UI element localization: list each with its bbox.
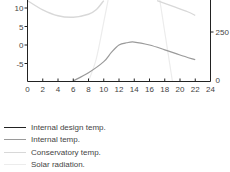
- legend-item-solar-radiation: Solar radiation.: [4, 159, 106, 172]
- chart: 024681012141618202224 1050-5 2500: [0, 0, 230, 110]
- svg-text:2: 2: [41, 85, 46, 94]
- legend-swatch-icon: [4, 152, 26, 153]
- svg-text:4: 4: [56, 85, 61, 94]
- legend-label: Conservatory temp.: [31, 148, 101, 157]
- svg-text:12: 12: [115, 85, 124, 94]
- svg-text:10: 10: [15, 4, 24, 13]
- svg-text:6: 6: [71, 85, 76, 94]
- series-line: [157, 1, 195, 16]
- svg-text:5: 5: [19, 23, 24, 32]
- svg-text:8: 8: [86, 85, 91, 94]
- legend-item-internal-temp: Internal temp.: [4, 134, 106, 147]
- series-line: [153, 0, 172, 81]
- svg-text:22: 22: [191, 85, 200, 94]
- svg-text:0: 0: [216, 76, 221, 85]
- series-line: [73, 42, 195, 81]
- legend-swatch-icon: [4, 139, 26, 140]
- legend-label: Solar radiation.: [31, 160, 85, 169]
- plot-lines: [28, 0, 196, 81]
- legend: Internal design temp. Internal temp. Con…: [4, 121, 106, 171]
- svg-text:0: 0: [19, 41, 24, 50]
- right-axis-ticks: 2500: [211, 28, 230, 85]
- svg-text:18: 18: [160, 85, 169, 94]
- svg-text:16: 16: [145, 85, 154, 94]
- left-axis-ticks: 1050-5: [15, 4, 28, 69]
- legend-label: Internal temp.: [31, 135, 80, 144]
- svg-text:14: 14: [130, 85, 139, 94]
- svg-text:250: 250: [216, 28, 230, 37]
- legend-swatch-icon: [4, 127, 26, 128]
- svg-text:10: 10: [99, 85, 108, 94]
- series-line: [28, 1, 104, 18]
- legend-swatch-icon: [4, 164, 26, 165]
- svg-text:24: 24: [206, 85, 215, 94]
- legend-label: Internal design temp.: [31, 123, 106, 132]
- legend-item-conservatory-temp: Conservatory temp.: [4, 146, 106, 159]
- x-axis-ticks: 024681012141618202224: [25, 79, 215, 94]
- svg-text:0: 0: [25, 85, 30, 94]
- svg-text:20: 20: [176, 85, 185, 94]
- legend-item-internal-design-temp: Internal design temp.: [4, 121, 106, 134]
- svg-text:-5: -5: [16, 60, 24, 69]
